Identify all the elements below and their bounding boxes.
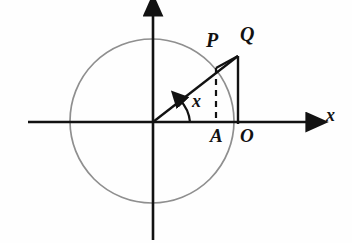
angle-arc-arrow-icon	[180, 100, 190, 122]
label-point-o: O	[240, 126, 254, 145]
figure-canvas	[0, 0, 352, 243]
label-point-p: P	[206, 30, 218, 50]
label-point-q: Q	[240, 24, 254, 44]
terminal-ray	[153, 56, 238, 122]
label-point-a: A	[210, 126, 223, 145]
label-angle-x: x	[192, 92, 201, 110]
label-axis-x: x	[326, 106, 335, 124]
segment-PQ	[216, 56, 238, 68]
trigonometry-figure: P Q A O x x	[0, 0, 352, 243]
